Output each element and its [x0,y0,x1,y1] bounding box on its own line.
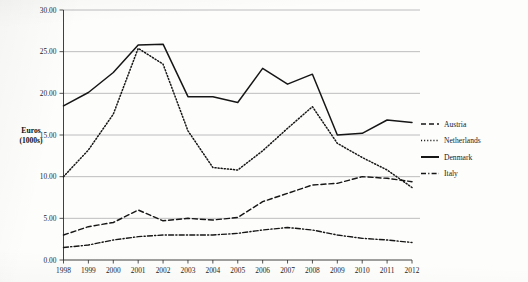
x-tick-label: 2000 [106,266,121,275]
x-axis-ticks [64,260,413,264]
legend-label-denmark: Denmark [444,153,472,162]
y-tick-label: 10.00 [40,172,57,181]
y-axis-title-line2: (1000s) [19,136,43,145]
legend-label-austria: Austria [444,120,467,129]
line-chart: 0.005.0010.0015.0020.0025.0030.00 199819… [0,0,528,282]
x-tick-label: 2012 [405,266,420,275]
y-axis-title-line1: Euros [21,126,40,135]
x-tick-label: 2004 [205,266,220,275]
x-tick-label: 1998 [56,266,71,275]
x-tick-label: 2003 [181,266,196,275]
x-tick-label: 2001 [131,266,146,275]
y-tick-label: 0.00 [44,256,57,265]
series-line-italy [64,228,413,248]
legend-label-netherlands: Netherlands [444,136,481,145]
legend-label-italy: Italy [444,169,458,178]
series-line-austria [64,177,413,235]
chart-page: 0.005.0010.0015.0020.0025.0030.00 199819… [0,0,528,282]
series-line-denmark [64,44,413,135]
y-tick-label: 20.00 [40,89,57,98]
gridlines [64,10,421,218]
y-tick-label: 5.00 [44,214,57,223]
x-tick-label: 2009 [330,266,345,275]
y-axis-ticks [60,10,64,260]
y-tick-label: 25.00 [40,47,57,56]
chart-legend: AustriaNetherlandsDenmarkItaly [421,120,481,179]
x-tick-label: 2011 [380,266,395,275]
y-tick-label: 30.00 [40,6,57,15]
x-tick-label: 2008 [305,266,320,275]
y-axis-title: Euros (1000s) [19,126,43,145]
x-tick-label: 2010 [355,266,370,275]
x-tick-label: 1999 [81,266,96,275]
x-axis-tick-labels: 1998199920002001200220032004200520062007… [56,266,420,275]
x-tick-label: 2006 [255,266,270,275]
x-tick-label: 2002 [156,266,171,275]
series-lines [64,44,413,247]
x-tick-label: 2005 [230,266,245,275]
x-tick-label: 2007 [280,266,295,275]
